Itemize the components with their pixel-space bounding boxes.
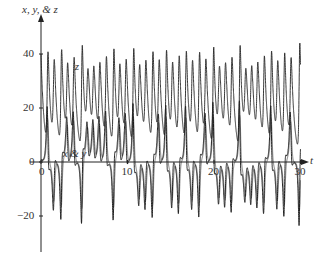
annotation-label: x & y	[63, 147, 87, 159]
y-axis-label: x, y, & z	[22, 3, 58, 15]
y-tick-label: 40	[23, 47, 34, 59]
y-axis-arrow-icon	[38, 14, 44, 22]
annotation-label: z	[75, 60, 79, 72]
curves-group	[41, 43, 301, 226]
x-tick-label: 30	[295, 165, 306, 177]
x-axis-label: t	[310, 154, 313, 166]
x-tick-label: 10	[122, 165, 133, 177]
series-z-line	[41, 43, 301, 144]
y-tick-label: 0	[29, 155, 35, 167]
x-tick-label: 0	[39, 165, 45, 177]
y-tick-label: −20	[17, 209, 34, 221]
x-tick-label: 20	[208, 165, 219, 177]
lorenz-chart	[0, 0, 326, 258]
ticks-group	[39, 54, 301, 216]
y-tick-label: 20	[23, 101, 34, 113]
